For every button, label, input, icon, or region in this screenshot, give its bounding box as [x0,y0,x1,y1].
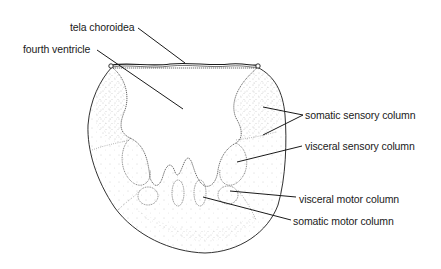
hindbrain-cross-section-diagram: tela choroidea fourth ventricle somatic … [0,0,441,269]
label-fourth-ventricle: fourth ventricle [23,44,90,55]
leader-tela-choroidea [138,28,185,63]
left-membrane-knob [109,64,113,68]
label-somatic-motor-column: somatic motor column [293,216,394,227]
label-tela-choroidea: tela choroidea [70,22,135,33]
label-somatic-sensory-column: somatic sensory column [305,110,415,121]
tela-choroidea-membrane [112,63,257,65]
diagram-drawing [0,0,441,269]
right-membrane-knob [256,64,260,68]
label-visceral-motor-column: visceral motor column [299,194,399,205]
label-visceral-sensory-column: visceral sensory column [305,141,415,152]
